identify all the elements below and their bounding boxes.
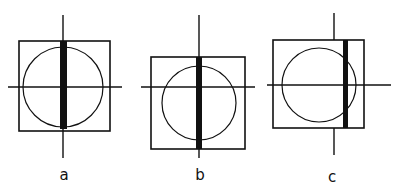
- panel-label: b: [195, 166, 205, 184]
- panel-b: b: [141, 15, 255, 184]
- panel-label: a: [59, 166, 68, 184]
- panel-label: c: [328, 168, 336, 186]
- thick-bar: [343, 40, 348, 128]
- diagram-canvas: a b c: [0, 0, 402, 187]
- thick-bar: [60, 41, 67, 129]
- panel-c: c: [267, 13, 391, 186]
- thick-bar: [196, 57, 202, 149]
- panel-a: a: [8, 15, 122, 184]
- square-outline: [273, 40, 364, 128]
